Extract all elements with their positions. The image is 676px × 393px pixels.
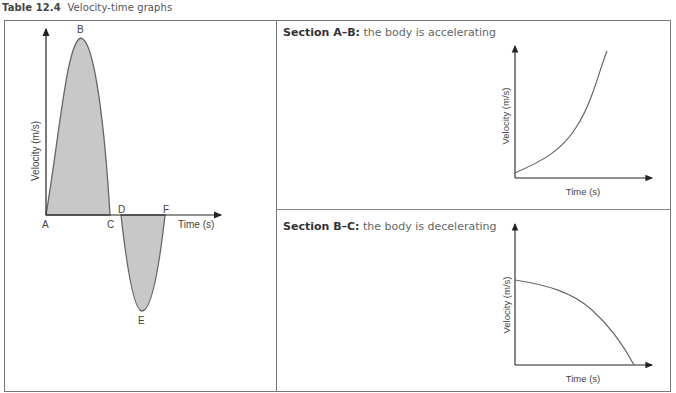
decelerating-graph: Velocity (m/s) Time (s) (277, 210, 670, 391)
point-d-label: D (118, 204, 125, 215)
negative-area (121, 215, 165, 311)
caption-title: Velocity-time graphs (67, 2, 172, 13)
y-axis-label: Velocity (m/s) (30, 121, 41, 181)
decelerating-curve (515, 280, 634, 365)
velocity-time-table: Velocity (m/s) Time (s) A B C D F E Sect… (4, 20, 671, 392)
positive-area (46, 38, 110, 215)
accelerating-curve (515, 51, 607, 173)
point-c-label: C (107, 219, 114, 230)
point-b-label: B (77, 24, 84, 35)
section-bc-cell: Section B–C: the body is decelerating Ve… (277, 210, 670, 391)
point-f-label: F (163, 204, 169, 215)
caption-label: Table 12.4 (2, 2, 61, 13)
main-graph-cell: Velocity (m/s) Time (s) A B C D F E (5, 21, 277, 391)
table-caption: Table 12.4 Velocity-time graphs (2, 2, 172, 13)
main-velocity-time-graph: Velocity (m/s) Time (s) A B C D F E (5, 21, 277, 391)
x-axis-label: Time (s) (566, 186, 600, 197)
point-e-label: E (138, 315, 145, 326)
y-axis-label: Velocity (m/s) (501, 276, 512, 333)
point-a-label: A (42, 219, 49, 230)
x-axis-label: Time (s) (566, 373, 600, 384)
accelerating-graph: Velocity (m/s) Time (s) (277, 21, 670, 209)
section-ab-cell: Section A–B: the body is accelerating Ve… (277, 21, 670, 210)
y-axis-label: Velocity (m/s) (500, 87, 511, 144)
x-axis-label: Time (s) (178, 219, 214, 230)
